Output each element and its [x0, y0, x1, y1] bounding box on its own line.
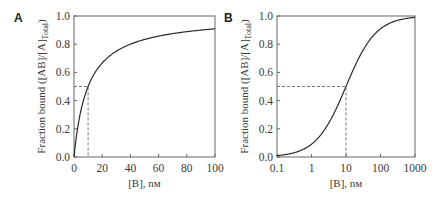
y-tick-label: 0.6 — [56, 66, 71, 78]
x-tick-label: 10 — [340, 162, 352, 174]
panel-b: B 0.00.20.40.60.81.0 0.11101001000 [B], … — [224, 10, 427, 189]
x-tick-label: 80 — [181, 162, 193, 174]
panel-a-binding-curve — [74, 29, 215, 157]
panel-a-y-axis-title: Fraction bound ([AB]/[A]Total) — [35, 19, 50, 154]
panel-a-x-axis-title: [B], nм — [128, 177, 161, 189]
binding-curves-figure: A 0.00.20.40.60.81.0 020406080100 [B], n… — [0, 0, 443, 201]
x-tick-label: 40 — [125, 162, 137, 174]
panel-b-kd-guide — [277, 87, 346, 158]
x-tick-label: 100 — [372, 162, 390, 174]
y-tick-label: 0.8 — [259, 38, 274, 50]
y-tick-label: 0.2 — [259, 123, 274, 135]
y-tick-label: 0.0 — [56, 151, 71, 163]
x-tick-label: 1000 — [404, 162, 427, 174]
panel-a-letter: A — [14, 11, 23, 25]
y-tick-label: 1.0 — [259, 10, 274, 22]
panel-a: A 0.00.20.40.60.81.0 020406080100 [B], n… — [14, 10, 224, 189]
y-tick-label: 0.4 — [56, 95, 71, 107]
y-tick-label: 0.6 — [259, 66, 274, 78]
panel-b-x-axis-title: [B], nм — [330, 177, 363, 189]
panel-b-letter: B — [224, 11, 233, 25]
x-tick-label: 100 — [206, 162, 224, 174]
x-tick-label: 0.1 — [270, 162, 285, 174]
y-tick-label: 1.0 — [56, 10, 71, 22]
panel-a-plot-frame — [74, 16, 215, 157]
y-tick-label: 0.8 — [56, 38, 71, 50]
x-tick-label: 0 — [71, 162, 77, 174]
panel-a-kd-guide — [74, 87, 88, 158]
x-tick-label: 20 — [96, 162, 108, 174]
y-tick-label: 0.4 — [259, 95, 274, 107]
panel-b-y-axis-title: Fraction bound ([AB]/[A]Total) — [238, 19, 253, 154]
x-tick-label: 1 — [309, 162, 315, 174]
x-tick-label: 60 — [153, 162, 165, 174]
y-tick-label: 0.2 — [56, 123, 71, 135]
